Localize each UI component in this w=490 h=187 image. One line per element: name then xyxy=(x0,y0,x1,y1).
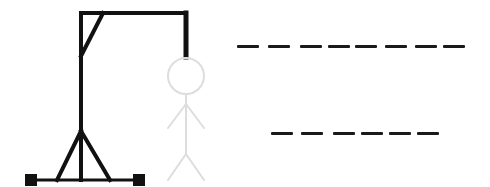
letter-slot xyxy=(385,45,407,48)
letter-slot xyxy=(355,45,377,48)
letter-slot xyxy=(333,132,355,135)
head-icon xyxy=(168,58,204,94)
letter-slot xyxy=(301,132,323,135)
arm-right-icon xyxy=(186,104,204,128)
letter-slot xyxy=(237,45,259,48)
letter-slot xyxy=(300,45,322,48)
letter-slot xyxy=(328,45,350,48)
leg-right-icon xyxy=(186,154,204,180)
letter-slot xyxy=(415,45,437,48)
letter-slot xyxy=(361,132,383,135)
letter-slot xyxy=(443,45,465,48)
letter-slot xyxy=(417,132,439,135)
base-foot-left-icon xyxy=(25,174,37,186)
stick-figure-icon xyxy=(168,58,204,180)
leg-left-icon xyxy=(168,154,186,180)
base-foot-right-icon xyxy=(133,174,145,186)
letter-slot xyxy=(268,45,290,48)
letter-slot xyxy=(389,132,411,135)
letter-slot xyxy=(271,132,293,135)
arm-left-icon xyxy=(168,104,186,128)
hangman-drawing xyxy=(0,0,245,187)
gallows-icon xyxy=(32,13,186,180)
